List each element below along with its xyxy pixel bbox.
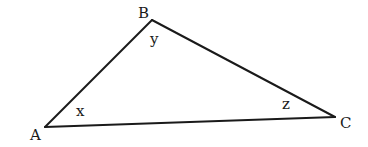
- vertex-label-b: B: [138, 4, 149, 22]
- triangle-diagram: A B C x y z: [0, 0, 368, 147]
- angle-label-x: x: [76, 102, 85, 120]
- edge-ca: [45, 117, 335, 127]
- vertex-label-c: C: [340, 114, 351, 132]
- edge-ab: [45, 20, 152, 127]
- angle-label-z: z: [282, 95, 290, 113]
- edge-bc: [152, 20, 335, 117]
- vertex-label-a: A: [29, 126, 41, 144]
- angle-label-y: y: [149, 30, 159, 48]
